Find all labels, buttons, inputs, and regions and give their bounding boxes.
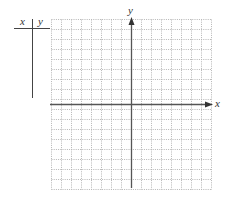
y-axis-arrow-icon xyxy=(129,17,135,25)
y-axis-label: y xyxy=(128,5,133,16)
coordinate-plane xyxy=(0,0,227,197)
x-axis-label: x xyxy=(215,98,220,109)
x-axis-arrow-icon xyxy=(205,102,213,108)
